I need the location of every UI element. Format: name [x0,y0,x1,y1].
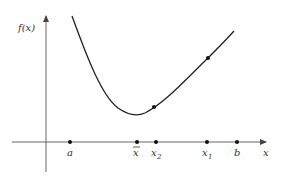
curve-point-x2 [152,105,156,109]
label-x1: x 1 [202,147,212,161]
y-axis-label: f(x) [17,22,35,33]
axis-point-x2 [154,140,158,144]
function-diagram: f(x) a x x 2 x 1 b x [0,0,286,186]
axis-point-a [68,140,72,144]
axis-point-xbar [135,140,139,144]
label-xbar: x [133,147,140,158]
axis-point-b [235,140,239,144]
x-axis-label: x [263,147,269,158]
label-b: b [234,147,240,158]
label-x2-sub: 2 [156,153,162,161]
label-a: a [67,147,73,158]
curve-point-x1 [206,56,210,60]
label-xbar-text: x [133,147,139,158]
label-x2: x 2 [151,147,162,161]
axis-point-x1 [205,140,209,144]
label-x1-sub: 1 [208,153,212,161]
function-curve [72,16,234,115]
